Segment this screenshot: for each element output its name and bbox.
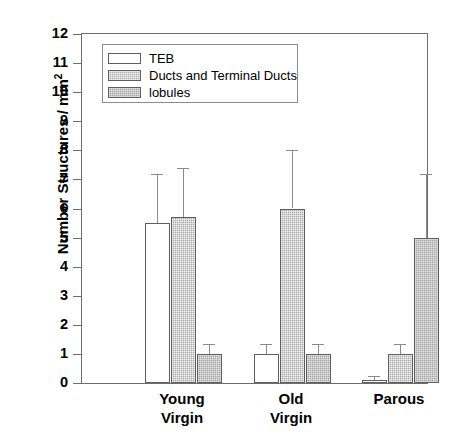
y-axis-tick: 2 xyxy=(73,325,82,326)
y-axis-tick: 9 xyxy=(73,121,82,122)
error-bar-cap xyxy=(203,344,215,345)
y-axis-tick-label: 11 xyxy=(53,54,68,70)
error-bar-line xyxy=(157,174,158,223)
x-axis-group-label-line: Virgin xyxy=(231,408,351,427)
error-bar-cap xyxy=(420,174,432,175)
y-axis-tick-label: 5 xyxy=(60,229,68,245)
y-axis-tick: 6 xyxy=(73,209,82,210)
y-axis-tick-label: 2 xyxy=(60,316,68,332)
x-axis-group-label: Parous xyxy=(339,389,453,408)
x-axis-group-label-line: Old xyxy=(231,389,351,408)
y-axis-tick: 8 xyxy=(73,150,82,151)
legend-item-label: TEB xyxy=(149,51,174,66)
y-axis-tick-label: 6 xyxy=(60,200,68,216)
x-axis-group-label-line: Virgin xyxy=(122,408,242,427)
error-bar-cap xyxy=(260,344,272,345)
x-axis-group-label-line: Young xyxy=(122,389,242,408)
white-box-swatch xyxy=(108,53,141,64)
error-bar-line xyxy=(183,168,184,217)
error-bar-line xyxy=(318,344,319,354)
error-bar-line xyxy=(292,150,293,208)
y-axis-tick: 0 xyxy=(73,383,82,384)
error-bar-cap xyxy=(312,344,324,345)
y-axis-tick: 11 xyxy=(73,63,82,64)
y-axis-tick: 3 xyxy=(73,296,82,297)
error-bar-cap xyxy=(151,174,163,175)
y-axis-tick: 5 xyxy=(73,238,82,239)
error-bar-line xyxy=(400,344,401,354)
error-bar-line xyxy=(426,174,427,238)
y-axis-tick: 10 xyxy=(73,92,82,93)
error-bar-line xyxy=(266,344,267,354)
chart-legend: TEBDucts and Terminal Ductslobules xyxy=(102,44,298,103)
error-bar-cap xyxy=(286,150,298,151)
y-axis-tick-label: 12 xyxy=(52,25,68,41)
bar-ducts xyxy=(280,209,305,384)
error-bar-line xyxy=(209,344,210,354)
y-axis-tick-label: 1 xyxy=(60,345,68,361)
error-bar-cap xyxy=(368,376,380,377)
bar-lobules xyxy=(414,238,439,383)
y-axis-tick-label: 7 xyxy=(60,170,68,186)
bar-teb xyxy=(254,354,279,383)
y-axis-tick: 7 xyxy=(73,179,82,180)
gray-stipple-swatch xyxy=(108,87,141,98)
legend-item: lobules xyxy=(108,84,297,100)
error-bar-cap xyxy=(177,168,189,169)
y-axis-tick-label: 8 xyxy=(60,141,68,157)
bar-teb xyxy=(362,380,387,383)
y-axis-tick: 4 xyxy=(73,267,82,268)
bar-lobules xyxy=(306,354,331,383)
x-axis-group-label: OldVirgin xyxy=(231,389,351,427)
bar-chart-figure: Number Structures / mm2 0123456789101112… xyxy=(0,0,453,445)
y-axis-title-exponent: 2 xyxy=(53,74,64,80)
y-axis-tick: 1 xyxy=(73,354,82,355)
y-axis-tick-label: 0 xyxy=(60,374,68,390)
error-bar-cap xyxy=(394,344,406,345)
legend-item: Ducts and Terminal Ducts xyxy=(108,67,297,83)
bar-lobules xyxy=(197,354,222,383)
gray-stipple-swatch xyxy=(108,70,141,81)
legend-item-label: lobules xyxy=(149,85,190,100)
x-axis-group-label: YoungVirgin xyxy=(122,389,242,427)
y-axis-tick-label: 9 xyxy=(60,112,68,128)
y-axis-tick: 12 xyxy=(73,34,82,35)
bar-teb xyxy=(145,223,170,383)
legend-item: TEB xyxy=(108,50,297,66)
x-axis-group-label-line: Parous xyxy=(339,389,453,408)
bar-ducts xyxy=(171,217,196,383)
y-axis-tick-label: 4 xyxy=(60,258,68,274)
bar-ducts xyxy=(388,354,413,383)
y-axis-tick-label: 3 xyxy=(60,287,68,303)
y-axis-tick-label: 10 xyxy=(52,83,68,99)
legend-item-label: Ducts and Terminal Ducts xyxy=(149,68,297,83)
